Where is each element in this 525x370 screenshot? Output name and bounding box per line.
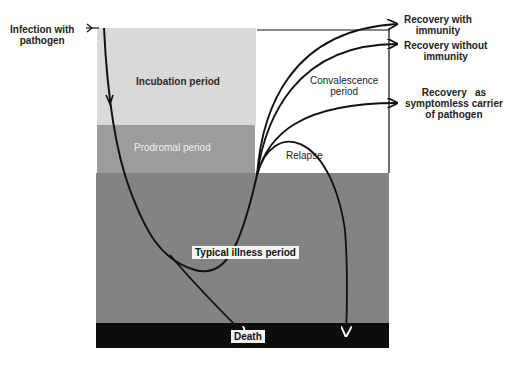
convalescence-label: Convalescence period [310, 75, 378, 97]
recovery-carrier-line [257, 103, 397, 175]
recovery-carrier-line1: Recovery as [405, 87, 503, 98]
recovery-no-immunity-label: Recovery without immunity [404, 40, 487, 62]
recovery-carrier-line2: symptomless carrier [405, 98, 503, 109]
recovery-immunity-line [257, 24, 397, 175]
convalescence-outline [257, 30, 389, 173]
infection-label-line2: pathogen [10, 35, 74, 46]
recovery-immunity-line1: Recovery with [404, 14, 472, 25]
death-label: Death [231, 330, 265, 343]
infection-label: Infection with pathogen [10, 24, 74, 46]
recovery-immunity-label: Recovery with immunity [404, 14, 472, 36]
convalescence-line2: period [310, 86, 378, 97]
prodromal-label: Prodromal period [134, 142, 211, 153]
recovery-no-immunity-line [257, 44, 397, 175]
recovery-carrier-label: Recovery as symptomless carrier of patho… [405, 87, 503, 120]
relapse-label: Relapse [286, 150, 323, 161]
death-path-left [170, 255, 246, 336]
convalescence-line1: Convalescence [310, 75, 378, 86]
typical-illness-label: Typical illness period [192, 246, 299, 259]
recovery-no-immunity-line1: Recovery without [404, 40, 487, 51]
recovery-carrier-line3: of pathogen [405, 109, 503, 120]
infection-label-line1: Infection with [10, 24, 74, 35]
recovery-immunity-line2: immunity [404, 25, 472, 36]
incubation-label: Incubation period [136, 76, 220, 87]
relapse-line [257, 142, 347, 336]
recovery-no-immunity-line2: immunity [404, 51, 487, 62]
